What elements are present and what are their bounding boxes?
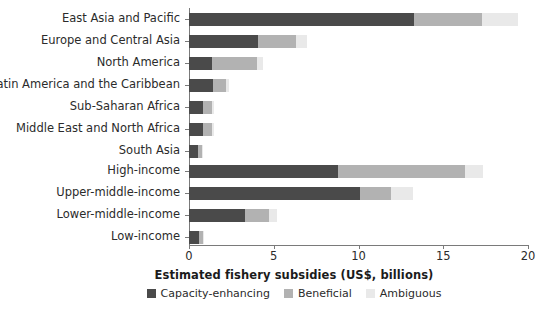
bar-category-label: North America (97, 57, 180, 69)
stacked-bar (189, 57, 263, 70)
bar-row: Europe and Central Asia (189, 30, 528, 52)
bar-row: High-income (189, 160, 528, 182)
x-tick-label: 15 (436, 251, 451, 263)
bar-category-label: East Asia and Pacific (62, 13, 180, 25)
bar-segment-amb (257, 57, 263, 70)
bar-segment-cap (189, 35, 258, 48)
legend-swatch-icon (147, 289, 156, 298)
x-tick-label: 20 (521, 251, 536, 263)
bar-row: Latin America and the Caribbean (189, 74, 528, 96)
bar-segment-amb (212, 101, 214, 114)
bar-row: South Asia (189, 140, 528, 162)
bar-segment-amb (465, 165, 483, 178)
legend-item[interactable]: Capacity-enhancing (147, 288, 270, 299)
stacked-bar (189, 165, 483, 178)
plot-area: East Asia and PacificEurope and Central … (189, 8, 528, 245)
x-tick-label: 5 (270, 251, 277, 263)
legend-item[interactable]: Ambiguous (366, 288, 442, 299)
bar-row: Upper-middle-income (189, 182, 528, 204)
bar-segment-amb (269, 209, 277, 222)
bar-category-label: Middle East and North Africa (16, 123, 180, 135)
stacked-bar (189, 13, 518, 26)
bar-row: Lower-middle-income (189, 204, 528, 226)
bar-segment-ben (360, 187, 391, 200)
bar-segment-cap (189, 165, 338, 178)
bar-row: Sub-Saharan Africa (189, 96, 528, 118)
bar-category-label: Europe and Central Asia (41, 35, 180, 47)
x-axis-title: Estimated fishery subsidies (US$, billio… (0, 268, 544, 282)
legend-label: Beneficial (298, 288, 352, 299)
bar-segment-cap (189, 101, 203, 114)
bar-segment-amb (226, 79, 229, 92)
bar-segment-amb (202, 145, 203, 158)
bar-segment-ben (203, 101, 211, 114)
stacked-bar (189, 101, 214, 114)
fishery-subsidies-chart: East Asia and PacificEurope and Central … (0, 0, 544, 313)
legend-label: Ambiguous (380, 288, 442, 299)
stacked-bar (189, 35, 307, 48)
bar-segment-amb (482, 13, 518, 26)
bar-segment-ben (338, 165, 465, 178)
x-axis-title-text: Estimated fishery subsidies (US$, billio… (155, 268, 434, 282)
bar-segment-amb (203, 231, 205, 244)
bar-row: Middle East and North Africa (189, 118, 528, 140)
stacked-bar (189, 79, 229, 92)
stacked-bar (189, 209, 277, 222)
region-bar-group: East Asia and PacificEurope and Central … (189, 8, 528, 162)
bar-category-label: Lower-middle-income (57, 209, 180, 221)
income-bar-group: High-incomeUpper-middle-incomeLower-midd… (189, 160, 528, 248)
bar-segment-cap (189, 13, 414, 26)
bar-segment-ben (203, 123, 211, 136)
bar-segment-ben (213, 79, 227, 92)
bar-segment-ben (245, 209, 269, 222)
bar-segment-ben (258, 35, 295, 48)
bar-category-label: Low-income (111, 231, 180, 243)
bar-category-label: High-income (107, 165, 180, 177)
stacked-bar (189, 187, 413, 200)
bar-category-label: South Asia (119, 145, 180, 157)
bar-segment-ben (212, 57, 257, 70)
stacked-bar (189, 145, 203, 158)
legend-swatch-icon (284, 289, 293, 298)
chart-legend: Capacity-enhancingBeneficialAmbiguous (44, 288, 544, 299)
bar-row: East Asia and Pacific (189, 8, 528, 30)
bar-segment-cap (189, 123, 203, 136)
bar-category-label: Sub-Saharan Africa (70, 101, 180, 113)
bar-segment-cap (189, 187, 360, 200)
bar-segment-ben (414, 13, 482, 26)
legend-item[interactable]: Beneficial (284, 288, 352, 299)
bar-segment-amb (296, 35, 307, 48)
bar-category-label: Latin America and the Caribbean (0, 79, 180, 91)
bar-category-label: Upper-middle-income (56, 187, 180, 199)
stacked-bar (189, 123, 214, 136)
bar-segment-cap (189, 209, 245, 222)
bar-segment-amb (391, 187, 413, 200)
bar-segment-cap (189, 145, 198, 158)
bar-segment-cap (189, 57, 212, 70)
legend-swatch-icon (366, 289, 375, 298)
bar-segment-cap (189, 231, 199, 244)
bar-segment-amb (212, 123, 214, 136)
bar-row: North America (189, 52, 528, 74)
stacked-bar (189, 231, 204, 244)
x-tick-label: 0 (185, 251, 192, 263)
x-tick-label: 10 (351, 251, 366, 263)
bar-segment-cap (189, 79, 213, 92)
legend-label: Capacity-enhancing (161, 288, 270, 299)
